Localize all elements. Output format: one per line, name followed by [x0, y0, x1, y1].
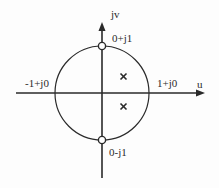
arrow-right-icon: [196, 90, 205, 97]
pole-marker-lower: [121, 104, 127, 110]
point-label-right: 1+j0: [157, 77, 178, 89]
point-label-top: 0+j1: [112, 32, 132, 44]
horizontal-axis: [16, 90, 205, 97]
zero-marker-top: [98, 42, 105, 49]
point-label-bottom: 0-j1: [109, 146, 127, 158]
horizontal-axis-label: u: [197, 78, 203, 90]
vertical-axis-label: jv: [110, 8, 120, 20]
point-label-left: -1+j0: [25, 77, 49, 89]
pole-marker-upper: [121, 74, 127, 80]
arrow-up-icon: [99, 22, 106, 31]
complex-plane-diagram: jv u 0+j1 0-j1 -1+j0 1+j0: [0, 0, 219, 188]
zero-marker-bottom: [98, 136, 105, 143]
